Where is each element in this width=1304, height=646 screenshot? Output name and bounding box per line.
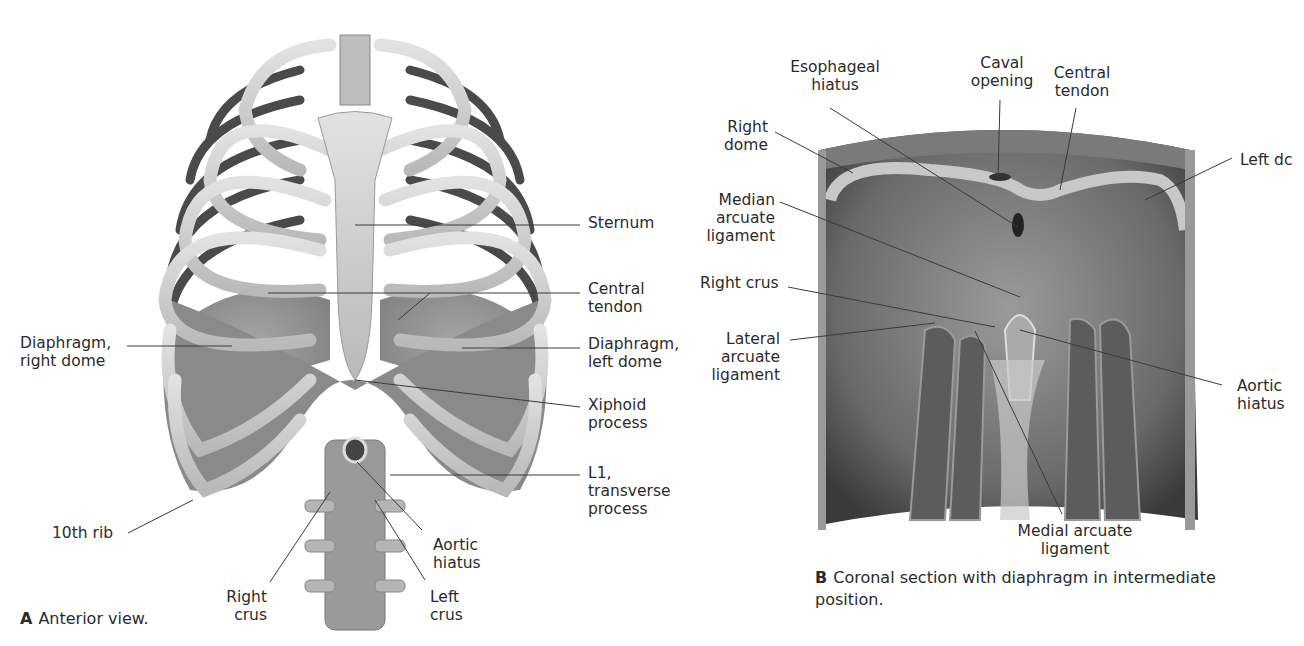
label-text: Medial arcuate bbox=[1005, 522, 1145, 540]
label-text: process bbox=[588, 500, 671, 518]
label-diaphragm-left-dome: Diaphragm, left dome bbox=[588, 335, 679, 371]
label-text: opening bbox=[970, 72, 1034, 90]
label-text: Right crus bbox=[700, 274, 779, 292]
label-text: ligament bbox=[705, 366, 780, 384]
label-text: Central bbox=[588, 280, 644, 298]
caption-text: position. bbox=[815, 589, 1216, 611]
label-right-crus-b: Right crus bbox=[700, 274, 779, 292]
label-diaphragm-right-dome: Diaphragm, right dome bbox=[20, 334, 111, 370]
label-xiphoid-process: Xiphoid process bbox=[588, 396, 648, 432]
label-median-arcuate-ligament: Median arcuate ligament bbox=[705, 191, 775, 245]
rib-cage-drawing bbox=[163, 35, 546, 630]
label-l1-transverse-process: L1, transverse process bbox=[588, 464, 671, 518]
label-text: crus bbox=[222, 606, 267, 624]
label-text: Aortic bbox=[433, 536, 481, 554]
label-text: Right bbox=[222, 588, 267, 606]
label-text: tendon bbox=[588, 298, 644, 316]
label-text: ligament bbox=[705, 227, 775, 245]
label-right-dome: Right dome bbox=[720, 118, 768, 154]
caption-letter: B bbox=[815, 568, 827, 587]
label-text: right dome bbox=[20, 352, 111, 370]
label-text: Central bbox=[1050, 64, 1114, 82]
label-central-tendon-b: Central tendon bbox=[1050, 64, 1114, 100]
caption-letter: A bbox=[20, 609, 32, 628]
label-central-tendon-a: Central tendon bbox=[588, 280, 644, 316]
label-text: process bbox=[588, 414, 648, 432]
label-lateral-arcuate-ligament: Lateral arcuate ligament bbox=[705, 330, 780, 384]
caption-text: Anterior view. bbox=[38, 609, 148, 628]
label-text: hiatus bbox=[433, 554, 481, 572]
label-text: Left bbox=[430, 588, 463, 606]
label-text: Esophageal bbox=[785, 58, 885, 76]
label-text: hiatus bbox=[1237, 395, 1285, 413]
label-text: dome bbox=[720, 136, 768, 154]
label-text: Diaphragm, bbox=[20, 334, 111, 352]
label-left-crus-a: Left crus bbox=[430, 588, 463, 624]
label-text: arcuate bbox=[705, 348, 780, 366]
caption-b: BCoronal section with diaphragm in inter… bbox=[815, 567, 1216, 611]
label-text: Diaphragm, bbox=[588, 335, 679, 353]
label-10th-rib: 10th rib bbox=[52, 524, 113, 542]
label-aortic-hiatus-b: Aortic hiatus bbox=[1237, 377, 1285, 413]
label-text: Median bbox=[705, 191, 775, 209]
label-sternum: Sternum bbox=[588, 214, 654, 232]
caption-text: Coronal section with diaphragm in interm… bbox=[833, 568, 1216, 587]
label-left-dome: Left dc bbox=[1240, 151, 1292, 169]
label-right-crus-a: Right crus bbox=[222, 588, 267, 624]
label-medial-arcuate-ligament: Medial arcuate ligament bbox=[1005, 522, 1145, 558]
label-text: Lateral bbox=[705, 330, 780, 348]
label-text: L1, bbox=[588, 464, 671, 482]
label-text: arcuate bbox=[705, 209, 775, 227]
label-text: Aortic bbox=[1237, 377, 1285, 395]
label-aortic-hiatus-a: Aortic hiatus bbox=[433, 536, 481, 572]
label-text: Right bbox=[720, 118, 768, 136]
label-text: hiatus bbox=[785, 76, 885, 94]
label-caval-opening: Caval opening bbox=[970, 54, 1034, 90]
label-text: ligament bbox=[1005, 540, 1145, 558]
label-esophageal-hiatus: Esophageal hiatus bbox=[785, 58, 885, 94]
label-text: Caval bbox=[970, 54, 1034, 72]
caption-a: AAnterior view. bbox=[20, 608, 149, 630]
label-text: 10th rib bbox=[52, 524, 113, 542]
label-text: transverse bbox=[588, 482, 671, 500]
label-text: crus bbox=[430, 606, 463, 624]
label-text: Left dc bbox=[1240, 151, 1292, 169]
label-text: tendon bbox=[1050, 82, 1114, 100]
label-text: left dome bbox=[588, 353, 679, 371]
label-text: Xiphoid bbox=[588, 396, 648, 414]
label-text: Sternum bbox=[588, 214, 654, 232]
